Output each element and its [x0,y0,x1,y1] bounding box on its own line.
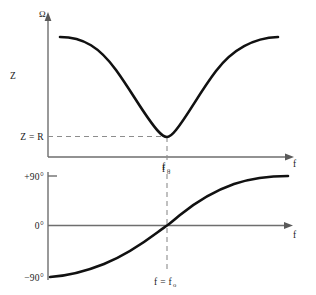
top-y-axis-unit-label: Ω [39,9,46,19]
impedance-magnitude-curve [60,37,278,137]
top-chart-group: Ω Z Z = R f o f [10,9,297,173]
bottom-minus90-label: −90° [24,273,44,283]
top-x-axis-label: f [293,159,297,169]
phase-angle-curve [50,176,288,277]
bottom-f-equals-f0-label-main: f = f [154,277,172,287]
bottom-f0-top-label-main: f [162,164,166,174]
top-z-equals-r-label: Z = R [20,132,44,142]
bottom-x-axis-arrowhead [284,222,293,229]
bottom-chart-group: +90° 0° −90° f o f = f o f [24,164,297,288]
bottom-zero-label: 0° [35,221,44,231]
bottom-plus90-label: +90° [24,172,44,182]
bottom-f-equals-f0-label-sub: o [173,281,176,288]
bottom-f0-top-label-sub: o [167,168,170,175]
bottom-x-axis-label: f [293,230,297,240]
resonance-figure: Ω Z Z = R f o f +90° 0° −90° f o [0,0,316,295]
figure-svg: Ω Z Z = R f o f +90° 0° −90° f o [0,0,316,295]
top-y-axis-quantity-label: Z [10,71,16,81]
